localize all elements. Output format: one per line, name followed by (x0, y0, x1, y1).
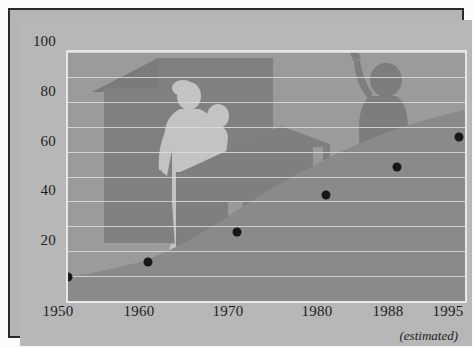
gridline-20 (68, 251, 465, 252)
plot-area (66, 50, 467, 303)
data-point-1960[interactable] (144, 257, 153, 266)
gridline-30 (68, 226, 465, 227)
gridline-40 (68, 201, 465, 202)
y-tick-label-100: 100 (20, 33, 56, 50)
data-point-1995[interactable] (455, 132, 464, 141)
chart-figure: 100 80 60 40 20 1950 1960 1970 1980 1988… (0, 0, 474, 348)
gridline-100 (68, 52, 465, 53)
x-tick-label-1970: 1970 (213, 303, 244, 320)
gridline-10 (68, 276, 465, 277)
gridline-50 (68, 177, 465, 178)
y-tick-label-80: 80 (20, 82, 56, 99)
plot-clip (68, 52, 465, 301)
gridline-80 (68, 102, 465, 103)
data-point-1988[interactable] (393, 162, 402, 171)
figure-border: 100 80 60 40 20 1950 1960 1970 1980 1988… (8, 8, 464, 338)
y-tick-label-60: 60 (20, 132, 56, 149)
x-tick-label-1980: 1980 (302, 303, 333, 320)
x-tick-label-1950: 1950 (43, 303, 74, 320)
figure-panel: 100 80 60 40 20 1950 1960 1970 1980 1988… (20, 20, 472, 346)
data-point-1970[interactable] (233, 227, 242, 236)
x-tick-label-1960: 1960 (124, 303, 155, 320)
estimated-annotation: (estimated) (400, 328, 458, 344)
y-tick-label-20: 20 (20, 232, 56, 249)
gridline-70 (68, 127, 465, 128)
data-point-1980[interactable] (322, 191, 331, 200)
x-tick-label-1995: 1995 (433, 303, 464, 320)
gridline-60 (68, 152, 465, 153)
gridline-90 (68, 77, 465, 78)
y-tick-label-40: 40 (20, 182, 56, 199)
x-tick-label-1988: 1988 (373, 303, 404, 320)
